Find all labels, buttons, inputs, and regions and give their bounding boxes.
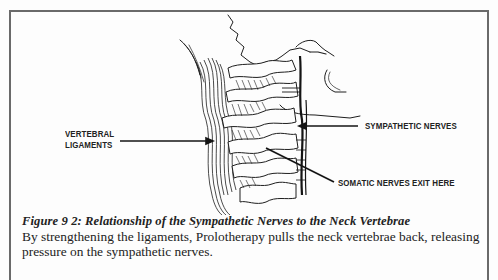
figure-caption-body: By strengthening the ligaments, Prolothe… [22, 229, 492, 259]
label-ligaments: Ligaments [65, 140, 114, 151]
label-somatic-nerves: Somatic Nerves Exit Here [338, 178, 455, 189]
label-sympathetic-nerves: Sympathetic Nerves [365, 121, 457, 132]
label-vertebral: Vertebral [65, 129, 114, 140]
figure-caption-title: Figure 9 2: Relationship of the Sympathe… [22, 214, 410, 229]
label-vertebral-ligaments: Vertebral Ligaments [65, 129, 114, 151]
